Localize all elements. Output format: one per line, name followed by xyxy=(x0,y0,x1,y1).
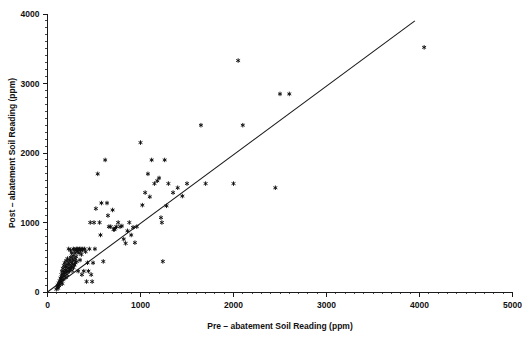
data-point-marker xyxy=(106,213,110,218)
data-point-marker xyxy=(161,259,165,264)
data-point-marker xyxy=(146,172,150,177)
data-point-marker xyxy=(204,181,208,186)
x-tick-label: 5000 xyxy=(503,300,522,310)
fit-line xyxy=(48,21,415,292)
regression-line xyxy=(48,21,415,292)
data-point-marker xyxy=(148,195,152,200)
data-point-marker xyxy=(160,220,164,225)
x-tick-label: 4000 xyxy=(410,300,429,310)
data-point-marker xyxy=(86,269,90,274)
x-axis-title: Pre – abatement Soil Reading (ppm) xyxy=(207,321,353,331)
data-point-marker xyxy=(185,181,189,186)
plot-canvas: 01000200030004000500001000200030004000Pr… xyxy=(0,0,529,353)
data-point-marker xyxy=(96,172,100,177)
data-point-marker xyxy=(85,279,89,284)
axes xyxy=(43,14,513,297)
data-point-marker xyxy=(94,206,98,211)
data-point-marker xyxy=(232,181,236,186)
y-tick-label: 0 xyxy=(35,287,40,297)
data-point-marker xyxy=(99,201,103,206)
data-point-marker xyxy=(111,208,115,213)
data-point-marker xyxy=(129,233,133,238)
x-tick-label: 1000 xyxy=(131,300,150,310)
data-point-marker xyxy=(143,190,147,195)
data-point-marker xyxy=(127,220,131,225)
data-point-marker xyxy=(139,140,143,145)
data-point-marker xyxy=(98,220,102,225)
data-point-marker xyxy=(199,123,203,128)
data-point-marker xyxy=(422,45,426,50)
data-point-marker xyxy=(88,220,92,225)
data-point-marker xyxy=(89,272,93,277)
data-point-marker xyxy=(159,215,163,220)
data-point-marker xyxy=(278,92,282,97)
data-point-marker xyxy=(133,240,137,245)
data-point-marker xyxy=(93,247,97,252)
data-point-marker xyxy=(122,237,126,242)
data-point-marker xyxy=(90,279,94,284)
data-point-marker xyxy=(163,158,167,163)
data-point-marker xyxy=(287,92,291,97)
y-axis-title: Post – abatement Soil Reading (ppm) xyxy=(7,78,17,228)
data-point-marker xyxy=(78,258,82,263)
y-tick-label: 4000 xyxy=(21,9,40,19)
data-point-marker xyxy=(76,269,80,274)
y-tick-label: 3000 xyxy=(21,79,40,89)
data-point-marker xyxy=(273,186,277,191)
data-point-marker xyxy=(99,233,103,238)
data-point-marker xyxy=(236,58,240,63)
data-point-marker xyxy=(241,123,245,128)
axis-labels: 01000200030004000500001000200030004000Pr… xyxy=(7,9,523,331)
data-point-marker xyxy=(87,247,91,252)
data-point-marker xyxy=(140,203,144,208)
data-point-marker xyxy=(101,259,105,264)
y-tick-label: 1000 xyxy=(21,218,40,228)
scatter-plot-figure: 01000200030004000500001000200030004000Pr… xyxy=(0,0,529,353)
x-tick-label: 3000 xyxy=(317,300,336,310)
x-tick-label: 2000 xyxy=(224,300,243,310)
data-point-marker xyxy=(82,269,86,274)
data-point-marker xyxy=(80,272,84,277)
data-point-marker xyxy=(150,158,154,163)
data-point-marker xyxy=(91,261,95,266)
data-point-marker xyxy=(92,220,96,225)
data-point-marker xyxy=(157,176,161,181)
data-point-marker xyxy=(176,186,180,191)
data-point-marker xyxy=(116,220,120,225)
data-point-marker xyxy=(180,194,184,199)
data-points xyxy=(54,45,426,291)
data-point-marker xyxy=(105,201,109,206)
data-point-marker xyxy=(171,190,175,195)
data-point-marker xyxy=(124,241,128,246)
data-point-marker xyxy=(103,158,107,163)
data-point-marker xyxy=(166,181,170,186)
x-tick-label: 0 xyxy=(45,300,50,310)
y-tick-label: 2000 xyxy=(21,148,40,158)
